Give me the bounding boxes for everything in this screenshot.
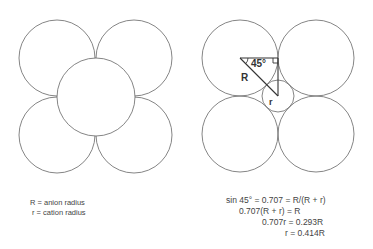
- equation-line-3: 0.707r = 0.293R: [262, 217, 323, 228]
- equation-line-2: 0.707(R + r) = R: [239, 206, 300, 217]
- legend-cation-radius: r = cation radius: [30, 208, 86, 218]
- R-label: R: [241, 72, 249, 83]
- left-diagram: [19, 20, 172, 173]
- angle-arc: [246, 58, 248, 64]
- legend: R = anion radius r = cation radius: [30, 198, 86, 218]
- r-label: r: [269, 97, 273, 107]
- angle-label: 45°: [251, 58, 266, 69]
- legend-anion-radius: R = anion radius: [30, 198, 86, 208]
- equation-line-1: sin 45° = 0.707 = R/(R + r): [226, 195, 326, 206]
- right-angle-marker: [273, 58, 278, 63]
- equation-line-4: r = 0.414R: [285, 228, 325, 239]
- central-circle: [57, 58, 135, 136]
